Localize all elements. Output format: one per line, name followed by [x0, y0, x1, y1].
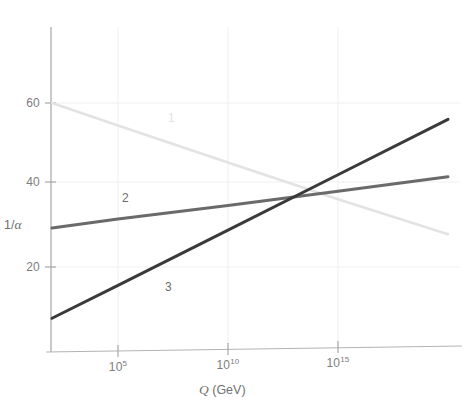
ytick-label-60: 60: [4, 96, 40, 110]
xtick-1-base: 10: [109, 360, 123, 374]
axis-lines: [46, 27, 462, 352]
ytick-label-20: 20: [4, 260, 40, 274]
xtick-2-exponent: 10: [230, 357, 239, 366]
figure-gauge-coupling-plot: 60 40 20 1/α 105 1010 1015 Q (GeV) 1 2 3: [0, 0, 466, 408]
ytick-label-40: 40: [4, 175, 40, 189]
xtick-3-base: 10: [326, 356, 340, 370]
x-axis-title-variable: Q: [199, 382, 209, 397]
alpha-symbol: α: [14, 217, 21, 232]
y-axis-title-numerator: 1/: [4, 218, 14, 232]
axis-ticks: [45, 103, 338, 357]
x-axis-title: Q (GeV): [199, 382, 246, 398]
curve-label-1: 1: [168, 111, 175, 125]
curve-label-2: 2: [122, 191, 129, 205]
gridlines-horizontal: [51, 103, 460, 267]
xtick-label-1: 105: [90, 360, 146, 374]
xtick-label-3: 1015: [309, 356, 367, 370]
curve-1: [52, 103, 448, 234]
xtick-1-exponent: 5: [123, 359, 128, 368]
xtick-2-base: 10: [216, 358, 230, 372]
curve-label-3: 3: [165, 280, 172, 294]
x-axis-title-unit: (GeV): [209, 383, 246, 397]
plot-canvas: [0, 0, 466, 408]
data-curves: [52, 103, 448, 318]
xtick-label-2: 1010: [199, 358, 257, 372]
xtick-3-exponent: 15: [340, 355, 349, 364]
y-axis-title: 1/α: [4, 217, 22, 233]
